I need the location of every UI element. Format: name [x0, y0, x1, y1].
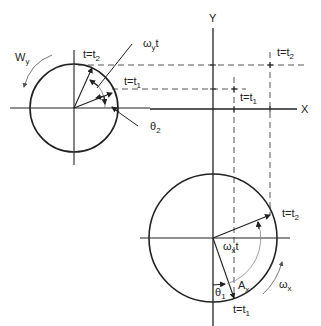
projection-lines	[78, 52, 305, 298]
ax-label: Ax	[238, 279, 249, 294]
omega-y-t-label: ωyt	[143, 37, 159, 52]
x-phasor-circle-group: t=t2 t=t1 ωxt Ax θ1 ωx	[140, 174, 300, 318]
y-t1-label: t=t1	[124, 75, 142, 90]
y-axis-label: Y	[209, 12, 217, 24]
right-time-labels: t=t2 t=t1	[240, 46, 295, 106]
x-arc-arrow	[258, 222, 259, 229]
y-arc-arrow-1	[90, 80, 98, 86]
x-phasor-t2-vector	[213, 215, 270, 238]
theta2-label: θ2	[150, 120, 161, 135]
y-arc-arrow-2	[104, 96, 105, 104]
x-t2-label: t=t2	[282, 207, 300, 222]
theta1-label: θ1	[215, 286, 226, 301]
omega-x-label: ωx	[279, 278, 292, 293]
intersection-ticks	[210, 62, 273, 112]
theta1-arrow	[213, 284, 225, 285]
omega-x-t-label: ωxt	[223, 240, 239, 255]
diagram-canvas: Y X t=t2 t=t1 Wy t=t2 t=t1	[0, 0, 321, 326]
t2-right-label: t=t2	[277, 46, 295, 61]
t1-right-label: t=t1	[240, 91, 258, 106]
x-axis-label: X	[301, 103, 309, 115]
wy-label: Wy	[15, 51, 29, 66]
y-angle-arc	[92, 80, 105, 108]
y-phasor-circle-group: Wy t=t2 t=t1 ωyt θ2	[10, 37, 161, 165]
x-t1-label: t=t1	[233, 303, 251, 318]
y-t2-label: t=t2	[83, 48, 101, 63]
